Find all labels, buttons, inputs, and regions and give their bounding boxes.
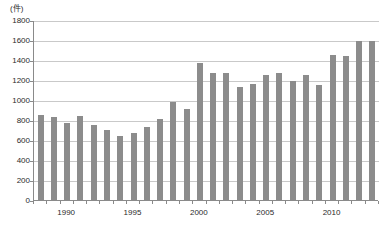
bar: [184, 109, 190, 200]
x-axis-tick-mark: [259, 201, 260, 204]
plot-area: [33, 21, 378, 201]
y-axis-tick-label: 200: [0, 177, 30, 185]
bar: [64, 123, 70, 200]
x-axis-tick-mark: [365, 201, 366, 204]
y-axis-tick-label: 400: [0, 157, 30, 165]
x-axis-tick-mark: [206, 201, 207, 204]
x-axis-tick-mark: [312, 201, 313, 204]
bar: [263, 75, 269, 201]
x-axis-tick-mark: [86, 201, 87, 204]
y-axis-tick-mark: [30, 81, 33, 82]
y-axis-tick-label: 0: [0, 197, 30, 205]
bar: [51, 117, 57, 200]
x-axis-tick-labels: 19901995200020052010: [33, 208, 378, 222]
y-axis-tick-mark: [30, 201, 33, 202]
y-axis-tick-mark: [30, 101, 33, 102]
x-axis-tick-marks: [33, 201, 378, 205]
bar: [369, 41, 375, 201]
bar: [91, 125, 97, 200]
x-axis-tick-mark: [245, 201, 246, 204]
y-axis-tick-mark: [30, 161, 33, 162]
x-axis-tick-mark: [378, 201, 379, 204]
bar: [316, 85, 322, 201]
x-axis-tick-mark: [152, 201, 153, 204]
x-axis-tick-mark: [338, 201, 339, 204]
x-axis-tick-mark: [325, 201, 326, 204]
y-axis-tick-mark: [30, 61, 33, 62]
gridline: [34, 101, 379, 102]
y-axis-tick-labels: 020040060080010001200140016001800: [0, 0, 30, 243]
bar: [170, 102, 176, 201]
bar: [356, 41, 362, 201]
bar: [131, 133, 137, 201]
x-axis-tick-label: 2005: [248, 208, 282, 217]
y-axis-tick-mark: [30, 41, 33, 42]
y-axis-tick-label: 600: [0, 137, 30, 145]
bar: [330, 55, 336, 201]
x-axis-tick-mark: [126, 201, 127, 204]
x-axis-tick-mark: [73, 201, 74, 204]
gridline: [34, 141, 379, 142]
gridline: [34, 81, 379, 82]
y-axis-tick-mark: [30, 121, 33, 122]
gridline: [34, 61, 379, 62]
gridline: [34, 181, 379, 182]
x-axis-tick-mark: [351, 201, 352, 204]
bar: [104, 130, 110, 200]
y-axis-tick-label: 1800: [0, 17, 30, 25]
y-axis-tick-mark: [30, 181, 33, 182]
gridline: [34, 41, 379, 42]
bar: [250, 84, 256, 201]
x-axis-tick-mark: [46, 201, 47, 204]
gridline: [34, 21, 379, 22]
gridline: [34, 121, 379, 122]
x-axis-tick-mark: [139, 201, 140, 204]
y-axis-tick-label: 1000: [0, 97, 30, 105]
bar: [290, 81, 296, 200]
x-axis-tick-mark: [298, 201, 299, 204]
x-axis-tick-mark: [99, 201, 100, 204]
bar: [38, 115, 44, 200]
gridline: [34, 161, 379, 162]
bar: [303, 75, 309, 201]
bar: [343, 56, 349, 201]
bar: [223, 73, 229, 200]
bar-chart: (件) 020040060080010001200140016001800 19…: [0, 0, 387, 243]
y-axis-tick-label: 800: [0, 117, 30, 125]
x-axis-tick-mark: [285, 201, 286, 204]
bar: [117, 136, 123, 201]
x-axis-tick-label: 2010: [315, 208, 349, 217]
x-axis-tick-mark: [192, 201, 193, 204]
y-axis-tick-label: 1200: [0, 77, 30, 85]
x-axis-tick-mark: [60, 201, 61, 204]
x-axis-tick-mark: [219, 201, 220, 204]
bar: [77, 116, 83, 200]
y-axis-tick-label: 1400: [0, 57, 30, 65]
bar: [197, 63, 203, 200]
bar: [237, 87, 243, 201]
x-axis-tick-label: 2000: [182, 208, 216, 217]
x-axis-tick-label: 1990: [49, 208, 83, 217]
x-axis-tick-mark: [113, 201, 114, 204]
x-axis-tick-mark: [166, 201, 167, 204]
x-axis-tick-mark: [232, 201, 233, 204]
bar: [157, 119, 163, 201]
bar: [210, 73, 216, 200]
bar: [144, 127, 150, 201]
bar: [276, 73, 282, 200]
y-axis-tick-label: 1600: [0, 37, 30, 45]
x-axis-tick-mark: [179, 201, 180, 204]
x-axis-tick-mark: [33, 201, 34, 204]
y-axis-tick-mark: [30, 141, 33, 142]
x-axis-tick-label: 1995: [116, 208, 150, 217]
x-axis-tick-mark: [272, 201, 273, 204]
y-axis-tick-mark: [30, 21, 33, 22]
